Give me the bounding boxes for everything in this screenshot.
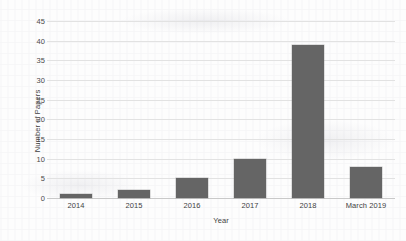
bar <box>176 178 208 198</box>
x-axis-tick-label: 2018 <box>279 201 337 210</box>
bar-slot <box>337 21 395 198</box>
bar-slot <box>221 21 279 198</box>
y-axis-tick-label: 20 <box>5 115 45 124</box>
bar-series <box>47 21 395 198</box>
bar <box>60 194 92 198</box>
gridline <box>47 198 395 199</box>
y-axis-tick-label: 35 <box>5 56 45 65</box>
y-axis-tick-label: 25 <box>5 95 45 104</box>
x-axis-tick-labels: 20142015201620172018March 2019 <box>47 201 395 210</box>
y-axis-tick-label: 45 <box>5 17 45 26</box>
y-axis-tick-labels: 051015202530354045 <box>0 21 45 198</box>
bar-slot <box>47 21 105 198</box>
y-axis-tick-label: 15 <box>5 135 45 144</box>
y-axis-tick-label: 0 <box>5 194 45 203</box>
x-axis-tick-label: 2015 <box>105 201 163 210</box>
x-axis-tick-label: 2016 <box>163 201 221 210</box>
bar-chart-figure: Number of Papers 051015202530354045 2014… <box>0 0 406 241</box>
x-axis-tick-label: 2014 <box>47 201 105 210</box>
plot-area <box>47 21 395 198</box>
x-axis-title: Year <box>47 216 395 225</box>
bar <box>118 190 150 198</box>
bar <box>292 45 324 198</box>
y-axis-tick-label: 5 <box>5 174 45 183</box>
bar-slot <box>105 21 163 198</box>
bar <box>234 159 266 198</box>
y-axis-tick-label: 10 <box>5 154 45 163</box>
bar <box>350 167 382 198</box>
y-axis-tick-label: 40 <box>5 36 45 45</box>
x-axis-tick-label: March 2019 <box>337 201 395 210</box>
y-axis-tick-label: 30 <box>5 76 45 85</box>
bar-slot <box>163 21 221 198</box>
bar-slot <box>279 21 337 198</box>
x-axis-tick-label: 2017 <box>221 201 279 210</box>
